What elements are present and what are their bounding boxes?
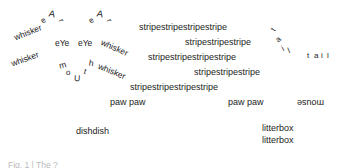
litterbox-label-line1: litterbox [262, 124, 294, 133]
word-cat-canvas: e A r e A r eYe eYe m o U t h whisker wh… [0, 0, 345, 168]
tail-straight-letter-i: i [321, 51, 323, 60]
tail-curved-letter-i: i [280, 44, 286, 53]
stripe-row-1: stripestripestripestripe [139, 23, 227, 32]
stripe-row-2: stripestripestripe [185, 38, 251, 47]
left-eye-label: eYe [55, 39, 69, 48]
stripe-row-3: stripestripestripestripe [148, 53, 236, 62]
tail-curved-letter-l: l [286, 46, 291, 55]
right-ear-letter-r: r [105, 17, 114, 24]
figure-caption: Fig. 1 | The ? [8, 161, 58, 168]
mouth-letter-h: h [88, 58, 94, 69]
mouth-letter-U: U [74, 73, 80, 83]
mouse-label: mouse [297, 98, 324, 107]
mouth-letter-t: t [83, 67, 88, 76]
front-paw-label: paw paw [110, 98, 146, 107]
right-ear-letter-e: e [87, 16, 96, 26]
tail-curved-letter-t: t [269, 26, 278, 33]
whisker-left-lower: whisker [10, 50, 40, 68]
back-paw-label: paw paw [228, 98, 264, 107]
stripe-row-4: stripestripestripe [194, 68, 260, 77]
tail-straight-letter-l: l [327, 51, 329, 60]
stripe-row-5: stripestripestripestripe [130, 83, 218, 92]
tail-straight-letter-a: a [314, 51, 318, 60]
tail-straight-letter-t: t [307, 51, 309, 60]
left-ear-letter-A: A [48, 7, 56, 19]
whisker-left-upper: whisker [13, 23, 43, 42]
whisker-right-upper: whisker [100, 38, 130, 57]
right-eye-label: eYe [78, 39, 92, 48]
left-ear-letter-r: r [57, 17, 66, 24]
dish-label: dishdish [76, 127, 109, 136]
right-ear-letter-A: A [96, 7, 104, 19]
mouth-letter-o: o [66, 68, 71, 77]
litterbox-label-line2: litterbox [262, 136, 294, 145]
whisker-right-lower: whisker [97, 62, 127, 81]
